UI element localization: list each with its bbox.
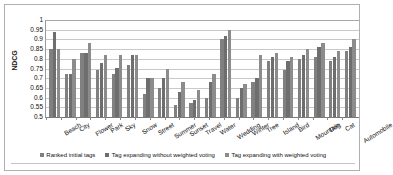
legend-item[interactable]: Ranked initial tags: [40, 152, 96, 158]
x-axis-tick-label: Dog: [328, 121, 342, 133]
y-axis-tick-label: 1: [19, 17, 43, 23]
bar: [174, 105, 177, 117]
bar: [259, 55, 262, 117]
bar: [267, 61, 270, 117]
y-axis-tick-label: 0.5: [19, 114, 43, 120]
legend-label: Tag expanding with weighted voting: [231, 152, 326, 158]
bar-group: [327, 20, 343, 117]
bar: [271, 57, 274, 117]
bar: [337, 51, 340, 117]
bar: [162, 78, 165, 117]
bar: [49, 49, 52, 117]
bar: [72, 59, 75, 117]
y-axis-tick-label: 0.7: [19, 75, 43, 81]
bar-group: [234, 20, 250, 117]
bar: [84, 53, 87, 117]
x-axis-tick-label: Snow: [141, 121, 159, 136]
bar-group: [342, 20, 358, 117]
bar: [100, 63, 103, 117]
y-axis-tick-label: 0.65: [19, 85, 43, 91]
bar: [135, 55, 138, 117]
bar-group: [311, 20, 327, 117]
y-axis-tick-label: 0.85: [19, 46, 43, 52]
chart-frame: NDCG 10.950.90.850.80.750.70.650.60.550.…: [4, 4, 360, 171]
bar: [240, 88, 243, 117]
bar: [143, 94, 146, 117]
y-axis-tick-labels: 10.950.90.850.80.750.70.650.60.550.5: [19, 17, 43, 118]
x-axis-tick-label: Cat: [343, 121, 355, 132]
bar: [119, 55, 122, 117]
bar: [193, 100, 196, 117]
bar: [314, 57, 317, 117]
bar-group: [63, 20, 79, 117]
bar: [317, 47, 320, 117]
bar-group: [202, 20, 218, 117]
legend-swatch-icon: [105, 153, 109, 157]
bar: [150, 78, 153, 117]
y-axis-tick-label: 0.6: [19, 95, 43, 101]
bar: [290, 57, 293, 117]
bar: [158, 88, 161, 117]
bar: [275, 53, 278, 117]
bar: [53, 32, 56, 117]
bar: [283, 70, 286, 117]
bar: [88, 43, 91, 117]
bar-group: [109, 20, 125, 117]
bar: [112, 74, 115, 117]
bar: [212, 74, 215, 117]
legend-label: Tag expanding without weighted voting: [112, 152, 215, 158]
bar: [243, 84, 246, 117]
y-axis-tick-label: 0.55: [19, 104, 43, 110]
bar: [220, 39, 223, 117]
bar-group: [296, 20, 312, 117]
bar: [178, 92, 181, 117]
bar: [80, 53, 83, 117]
bar: [189, 103, 192, 117]
legend-swatch-icon: [225, 153, 229, 157]
legend-swatch-icon: [40, 153, 44, 157]
bar: [57, 49, 60, 117]
bar-group: [125, 20, 141, 117]
bar: [251, 82, 254, 117]
bar: [329, 61, 332, 117]
bar: [224, 36, 227, 117]
bar: [181, 82, 184, 117]
y-axis-title: NDCG: [11, 39, 18, 83]
bar: [345, 51, 348, 117]
legend-label: Ranked initial tags: [46, 152, 95, 158]
bar: [352, 39, 355, 117]
bar: [127, 65, 130, 117]
bar: [321, 43, 324, 117]
legend-divider: [11, 163, 355, 164]
x-axis-tick-label: Automobile: [362, 121, 393, 144]
bar: [146, 78, 149, 117]
bar: [298, 59, 301, 117]
bar: [333, 57, 336, 117]
x-axis-tick-label: Water: [219, 121, 237, 136]
x-axis-tick-label: Sky: [124, 121, 137, 133]
bar: [228, 30, 231, 117]
bar: [302, 55, 305, 117]
bar: [286, 61, 289, 117]
bar: [166, 69, 169, 118]
bar: [209, 82, 212, 117]
bar-group: [280, 20, 296, 117]
bar-group: [47, 20, 63, 117]
chart-legend: Ranked initial tagsTag expanding without…: [5, 152, 361, 158]
bar: [104, 55, 107, 117]
bar: [65, 74, 68, 117]
x-axis-tick-label: Bird: [296, 121, 310, 133]
x-axis-tick-labels: BeachCityFlowerParkSkySnowStreetSummerSu…: [45, 121, 358, 151]
bar-group: [78, 20, 94, 117]
legend-item[interactable]: Tag expanding without weighted voting: [105, 152, 215, 158]
bar-group: [171, 20, 187, 117]
bar-group: [94, 20, 110, 117]
bar: [236, 98, 239, 117]
bar-group: [140, 20, 156, 117]
bar-group: [265, 20, 281, 117]
legend-item[interactable]: Tag expanding with weighted voting: [225, 152, 326, 158]
y-axis-tick-label: 0.9: [19, 36, 43, 42]
plot-area: [45, 20, 359, 118]
bar: [306, 49, 309, 117]
